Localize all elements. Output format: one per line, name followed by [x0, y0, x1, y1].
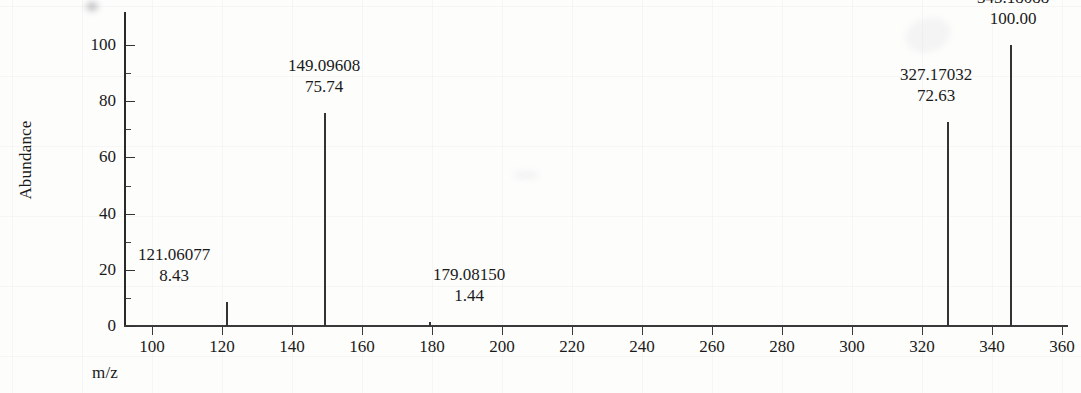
y-axis-tick — [126, 157, 135, 158]
x-axis-tick-label: 360 — [1032, 337, 1081, 356]
x-axis-tick — [992, 327, 993, 335]
x-axis-tick — [362, 327, 363, 335]
x-axis-tick-label: 200 — [472, 337, 532, 356]
peak-abundance-value: 72.63 — [851, 85, 1021, 106]
peak-mz-value: 327.17032 — [851, 64, 1021, 85]
peak-stem[interactable] — [1010, 45, 1012, 326]
mass-spectrum-chart: Abundance m/z 020406080100 1001201401601… — [0, 0, 1081, 393]
x-axis-tick-label: 140 — [262, 337, 322, 356]
y-axis-tick-label: 0 — [66, 317, 116, 334]
x-axis-tick-label: 180 — [402, 337, 462, 356]
y-axis-tick — [126, 45, 135, 46]
x-axis-line — [124, 325, 1068, 327]
y-axis-label: Abundance — [16, 100, 36, 220]
x-axis-tick — [1062, 327, 1063, 335]
y-axis-minor-tick — [126, 129, 131, 130]
x-axis-tick-label: 300 — [822, 337, 882, 356]
x-axis-label: m/z — [92, 363, 118, 383]
peak-label: 121.060778.43 — [89, 244, 259, 286]
peak-abundance-value: 100.00 — [928, 8, 1081, 29]
peak-mz-value: 149.09608 — [239, 55, 409, 76]
x-axis-tick-label: 220 — [542, 337, 602, 356]
x-axis-tick — [852, 327, 853, 335]
y-axis-minor-tick — [126, 73, 131, 74]
y-axis-tick-label: 80 — [66, 92, 116, 109]
x-axis-tick — [152, 327, 153, 335]
x-axis-tick — [922, 327, 923, 335]
peak-label: 149.0960875.74 — [239, 55, 409, 97]
x-axis-tick-label: 240 — [612, 337, 672, 356]
y-axis-tick-label: 60 — [66, 148, 116, 165]
peak-label: 179.081501.44 — [384, 264, 554, 306]
peak-mz-value: 121.06077 — [89, 244, 259, 265]
peak-mz-value: 179.08150 — [384, 264, 554, 285]
x-axis-tick-label: 120 — [192, 337, 252, 356]
peak-abundance-value: 75.74 — [239, 76, 409, 97]
x-axis-tick — [572, 327, 573, 335]
x-axis-tick — [782, 327, 783, 335]
peak-stem[interactable] — [324, 113, 326, 326]
x-axis-tick-label: 280 — [752, 337, 812, 356]
y-axis-tick — [126, 101, 135, 102]
y-axis-minor-tick — [126, 242, 131, 243]
peak-stem[interactable] — [429, 322, 431, 326]
peak-abundance-value: 1.44 — [384, 285, 554, 306]
x-axis-tick-label: 100 — [122, 337, 182, 356]
x-axis-tick — [642, 327, 643, 335]
y-axis-minor-tick — [126, 186, 131, 187]
x-axis-tick-label: 320 — [892, 337, 952, 356]
peak-mz-value: 345.18088 — [928, 0, 1081, 8]
peak-label: 327.1703272.63 — [851, 64, 1021, 106]
peak-stem[interactable] — [947, 122, 949, 326]
x-axis-tick — [712, 327, 713, 335]
y-axis-tick — [126, 326, 135, 327]
peak-stem[interactable] — [226, 302, 228, 326]
y-axis-minor-tick — [126, 298, 131, 299]
y-axis-tick — [126, 214, 135, 215]
x-axis-tick — [502, 327, 503, 335]
x-axis-tick-label: 160 — [332, 337, 392, 356]
peak-abundance-value: 8.43 — [89, 265, 259, 286]
peak-label: 345.18088100.00 — [928, 0, 1081, 29]
x-axis-tick — [432, 327, 433, 335]
x-axis-tick — [292, 327, 293, 335]
x-axis-tick-label: 340 — [962, 337, 1022, 356]
x-axis-tick — [222, 327, 223, 335]
y-axis-tick-label: 100 — [66, 36, 116, 53]
x-axis-tick-label: 260 — [682, 337, 742, 356]
y-axis-tick-label: 40 — [66, 205, 116, 222]
